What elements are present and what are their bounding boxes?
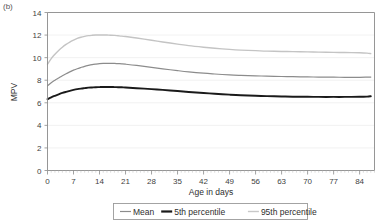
x-tick-label: 63	[277, 177, 286, 186]
y-axis-title: MPV	[9, 82, 19, 101]
y-tick-label: 6	[37, 99, 42, 108]
x-axis-ticks: 071421283542495663707784	[45, 171, 374, 186]
series-line	[48, 63, 371, 86]
y-tick-label: 12	[33, 31, 42, 40]
legend-label: 5th percentile	[174, 207, 225, 217]
y-tick-label: 10	[33, 54, 42, 63]
x-tick-label: 28	[147, 177, 156, 186]
x-axis-title: Age in days	[189, 187, 233, 197]
plot-frame	[48, 13, 375, 171]
x-tick-label: 84	[355, 177, 364, 186]
x-tick-label: 56	[251, 177, 260, 186]
legend-label: Mean	[133, 207, 155, 217]
x-tick-label: 49	[225, 177, 234, 186]
x-tick-label: 0	[45, 177, 50, 186]
y-tick-label: 14	[33, 9, 42, 18]
x-tick-label: 7	[71, 177, 76, 186]
figure-panel: (b) 071421283542495663707784 02468101214…	[0, 0, 383, 224]
legend-label: 95th percentile	[261, 207, 317, 217]
chart-legend: Mean5th percentile95th percentile	[114, 204, 317, 220]
mpv-age-line-chart: 071421283542495663707784 02468101214 Age…	[0, 0, 383, 224]
series-group	[48, 35, 371, 99]
x-tick-label: 14	[95, 177, 104, 186]
legend-items: Mean5th percentile95th percentile	[120, 207, 317, 217]
x-tick-label: 21	[121, 177, 130, 186]
series-line	[48, 87, 371, 99]
y-tick-label: 2	[37, 144, 42, 153]
series-line	[48, 35, 371, 64]
y-tick-label: 0	[37, 167, 42, 176]
x-tick-label: 77	[329, 177, 338, 186]
x-tick-label: 70	[303, 177, 312, 186]
x-tick-label: 42	[199, 177, 208, 186]
y-axis-ticks: 02468101214	[33, 9, 48, 176]
y-tick-label: 8	[37, 76, 42, 85]
x-tick-label: 35	[173, 177, 182, 186]
y-tick-label: 4	[37, 121, 42, 130]
